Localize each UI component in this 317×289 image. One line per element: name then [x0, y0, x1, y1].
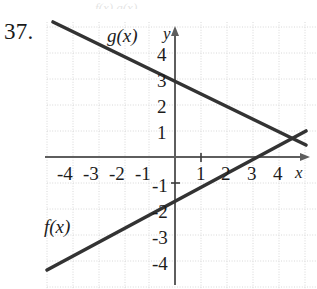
xtick-label-4: 4 [273, 163, 283, 184]
xtick-label-1: 1 [196, 163, 206, 184]
xtick-label-neg3: -3 [83, 163, 99, 184]
y-axis-label: y [161, 24, 171, 43]
ytick-label-3: 3 [157, 70, 167, 91]
y-axis [171, 26, 179, 285]
curve-g [53, 22, 306, 145]
coordinate-plane: -4 -3 -2 -1 1 2 3 4 4 3 2 1 -1 -2 -3 -4 … [0, 0, 317, 289]
x-axis [45, 153, 310, 161]
xtick-label-neg1: -1 [135, 163, 151, 184]
ytick-label-2: 2 [157, 96, 167, 117]
curve-f [47, 131, 306, 270]
xtick-label-2: 2 [221, 163, 231, 184]
ytick-label-neg3: -3 [152, 227, 168, 248]
ytick-label-neg1: -1 [152, 175, 168, 196]
ytick-label-neg4: -4 [152, 253, 168, 274]
exercise-figure: f(x) g(x) 37. [0, 0, 317, 289]
xtick-label-neg4: -4 [57, 163, 73, 184]
curve-label-f: f(x) [44, 216, 70, 238]
ytick-label-4: 4 [157, 44, 167, 65]
ytick-label-1: 1 [157, 122, 167, 143]
xtick-label-neg2: -2 [109, 163, 125, 184]
xtick-label-3: 3 [247, 163, 257, 184]
x-axis-label: x [294, 163, 303, 182]
curve-label-g: g(x) [107, 25, 138, 47]
ytick-label-neg2: -2 [152, 201, 168, 222]
